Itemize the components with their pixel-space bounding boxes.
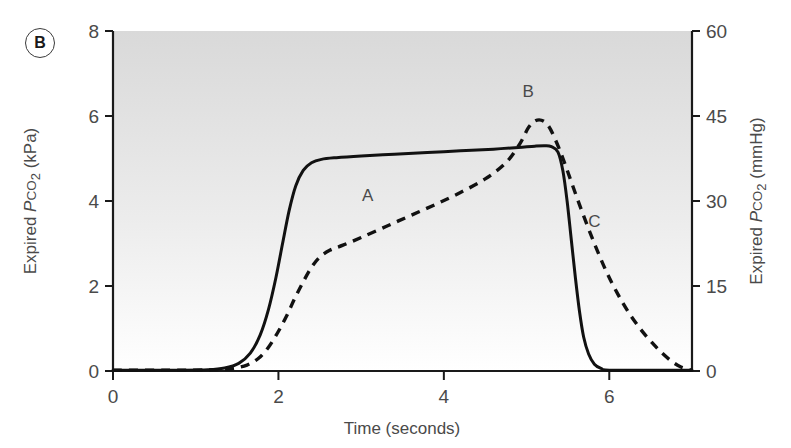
y-axis-right-tick-label: 60 bbox=[706, 21, 727, 42]
y-axis-left-title: Expired PCO2 (kPa) bbox=[21, 128, 43, 275]
y-axis-left-tick-label: 8 bbox=[88, 21, 99, 42]
x-axis-tick-label: 0 bbox=[108, 386, 119, 407]
y-axis-left-tick-labels: 02468 bbox=[88, 21, 99, 382]
y-axis-right-tick-label: 45 bbox=[706, 106, 727, 127]
x-axis-tick-labels: 0246 bbox=[108, 386, 615, 407]
curve-label-b: B bbox=[523, 82, 534, 101]
y-axis-right-title: Expired PCO2 (mmHg) bbox=[747, 117, 769, 284]
curve-label-a: A bbox=[362, 186, 374, 205]
y-axis-left-tick-label: 4 bbox=[88, 191, 99, 212]
panel-label-badge: B bbox=[25, 28, 55, 58]
curve-label-c: C bbox=[588, 212, 600, 231]
x-axis-tick-label: 2 bbox=[273, 386, 284, 407]
panel-label-text: B bbox=[34, 35, 46, 51]
svg-text:Expired PCO2 (kPa): Expired PCO2 (kPa) bbox=[21, 128, 43, 275]
figure-panel-b: B 02468 015304560 0246 ABC Time (second bbox=[0, 0, 791, 448]
capnogram-chart: 02468 015304560 0246 ABC Time (seconds) … bbox=[0, 0, 791, 448]
y-axis-right-tick-labels: 015304560 bbox=[706, 21, 727, 382]
x-axis-tick-label: 4 bbox=[439, 386, 450, 407]
x-axis-title: Time (seconds) bbox=[344, 419, 461, 438]
x-axis-tick-label: 6 bbox=[604, 386, 615, 407]
y-axis-left-tick-label: 0 bbox=[88, 361, 99, 382]
y-axis-right-tick-label: 30 bbox=[706, 191, 727, 212]
y-axis-right-tick-label: 15 bbox=[706, 276, 727, 297]
x-axis-ticks bbox=[113, 371, 609, 380]
y-axis-right-ticks bbox=[692, 31, 700, 371]
svg-text:Expired PCO2 (mmHg): Expired PCO2 (mmHg) bbox=[747, 117, 769, 284]
y-axis-left-tick-label: 2 bbox=[88, 276, 99, 297]
plot-background bbox=[113, 31, 692, 371]
y-axis-left-tick-label: 6 bbox=[88, 106, 99, 127]
y-axis-right-tick-label: 0 bbox=[706, 361, 717, 382]
y-axis-left-ticks bbox=[105, 31, 113, 371]
